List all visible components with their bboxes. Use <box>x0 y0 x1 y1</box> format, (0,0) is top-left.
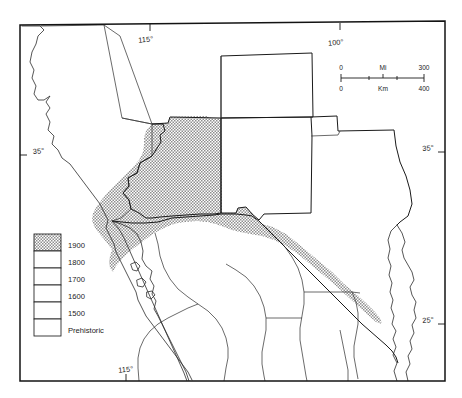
page-background <box>0 0 462 398</box>
scale-bottom-unit-label: Km <box>378 85 388 92</box>
scale-bottom-right-value: 400 <box>418 85 429 92</box>
latitude-label-25-right: 25° <box>422 315 434 325</box>
longitude-label-115-bottom: 115° <box>118 364 134 374</box>
legend-swatch-1900 <box>34 234 61 251</box>
legend-label-prehistoric: Prehistoric <box>68 326 104 335</box>
longitude-label-100-top: 100° <box>328 37 344 47</box>
legend-swatch-1700 <box>34 268 61 285</box>
latitude-label-35-left: 35° <box>32 146 44 156</box>
legend-label-1500: 1500 <box>68 309 85 318</box>
scale-bottom-left-value: 0 <box>339 85 343 92</box>
scale-top-right-value: 300 <box>418 64 429 71</box>
map-canvas: 115° 100° 35° 35° 25° 115° 0 Mi 300 0 Km… <box>0 0 462 398</box>
legend-swatch-prehistoric <box>34 319 61 336</box>
legend-label-1800: 1800 <box>68 258 85 267</box>
legend-label-1900: 1900 <box>68 241 85 250</box>
map-figure: 115° 100° 35° 35° 25° 115° 0 Mi 300 0 Km… <box>0 0 462 398</box>
legend-label-1600: 1600 <box>68 292 85 301</box>
latitude-label-35-right: 35° <box>422 143 434 153</box>
legend-swatch-1800 <box>34 251 61 268</box>
legend-label-1700: 1700 <box>68 275 85 284</box>
scale-top-left-value: 0 <box>339 64 343 71</box>
longitude-label-115-top: 115° <box>138 34 154 44</box>
legend-swatch-1600 <box>34 285 61 302</box>
scale-top-unit-label: Mi <box>380 64 387 71</box>
legend-swatch-1500 <box>34 302 61 319</box>
